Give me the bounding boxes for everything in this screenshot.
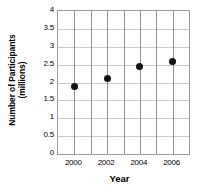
gridline-vertical xyxy=(91,11,92,154)
y-axis-tick-label: 3.5 xyxy=(30,24,54,32)
y-axis-tick-label: 3 xyxy=(30,42,54,50)
gridline-vertical xyxy=(124,11,125,154)
y-axis-tick-label: 0.5 xyxy=(30,131,54,139)
y-axis-title-line-2: (millions) xyxy=(17,34,27,125)
scatter-chart-figure: Number of Participants (millions) 00.511… xyxy=(0,0,199,195)
gridline-vertical xyxy=(107,11,108,154)
data-point xyxy=(104,75,111,82)
x-axis-tick-labels: 2000200220042006 xyxy=(57,158,190,172)
y-axis-tick-label: 4 xyxy=(30,6,54,14)
gridline-vertical xyxy=(140,11,141,154)
gridline-vertical xyxy=(173,11,174,154)
y-axis-tick-label: 2.5 xyxy=(30,60,54,68)
y-axis-title: Number of Participants (millions) xyxy=(0,0,34,160)
y-axis-tick-labels: 00.511.522.533.54 xyxy=(30,10,54,155)
y-axis-tick-label: 2 xyxy=(30,78,54,86)
y-axis-title-line-1: Number of Participants xyxy=(7,34,17,125)
data-point xyxy=(169,58,176,65)
y-axis-tick-label: 1 xyxy=(30,113,54,121)
data-point xyxy=(136,63,143,70)
y-axis-tick-label: 0 xyxy=(30,149,54,157)
x-axis-tick-label: 2006 xyxy=(152,158,192,168)
gridline-vertical xyxy=(156,11,157,154)
data-point xyxy=(71,83,78,90)
plot-area xyxy=(57,10,190,155)
x-axis-title: Year xyxy=(40,173,199,185)
y-axis-tick-label: 1.5 xyxy=(30,95,54,103)
